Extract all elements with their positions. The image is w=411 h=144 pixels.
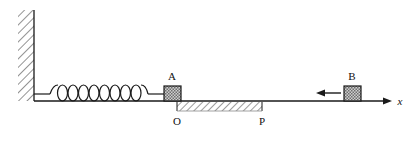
spring-coil <box>34 85 164 101</box>
wall <box>18 10 34 101</box>
label-origin-o: O <box>173 115 181 127</box>
label-x-axis: x <box>397 95 403 107</box>
label-point-p: P <box>259 115 265 127</box>
diagram-canvas: A B O P x <box>0 0 411 144</box>
rough-surface-hatched <box>177 102 262 111</box>
block-b <box>344 86 361 101</box>
label-block-a: A <box>168 70 176 82</box>
axis-arrow-head <box>383 97 392 104</box>
block-a <box>164 86 181 101</box>
physics-diagram-figure: A B O P x <box>0 0 411 144</box>
velocity-left-arrow <box>316 89 341 96</box>
label-block-b: B <box>348 70 355 82</box>
